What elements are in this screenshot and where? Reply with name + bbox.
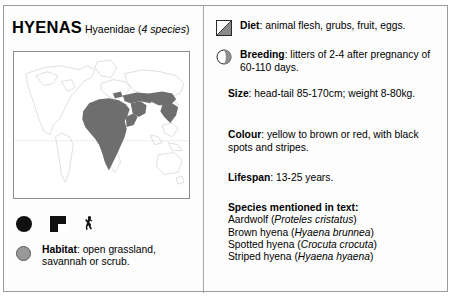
species-common-name: Striped hyena ( — [228, 251, 298, 262]
species-latin-name: Hyaena brunnea — [294, 227, 370, 238]
lifespan-value: : 13-25 years. — [270, 172, 333, 183]
habitat-label: Habitat — [42, 244, 77, 255]
species-latin-name: Hyaena hyaena — [298, 251, 370, 262]
species-latin-name: Proteles cristatus — [274, 214, 353, 225]
right-column: Diet: animal flesh, grubs, fruit, eggs. … — [204, 6, 449, 293]
species-list-item: Striped hyena (Hyaena hyaena) — [228, 251, 443, 263]
species-common-name: Aardwolf ( — [228, 214, 274, 225]
fact-panel: HYENASHyaenidae (4 species) — [3, 5, 448, 292]
species-paren-close: ) — [373, 239, 376, 250]
title-subtitle: Hyaenidae (4 species) — [85, 23, 189, 35]
fact-lifespan: Lifespan: 13-25 years. — [228, 172, 433, 185]
title-species-count: 4 species — [142, 23, 186, 35]
species-common-name: Spotted hyena ( — [228, 239, 301, 250]
species-list-item: Brown hyena (Hyaena brunnea) — [228, 227, 443, 239]
species-list-block: Species mentioned in text: Aardwolf (Pro… — [228, 202, 443, 263]
species-list-item: Spotted hyena (Crocuta crocuta) — [228, 239, 443, 251]
map-legend-symbols — [14, 214, 194, 236]
species-list-heading: Species mentioned in text: — [228, 202, 443, 214]
breeding-circle-icon — [216, 49, 232, 65]
left-column: HYENASHyaenidae (4 species) — [4, 6, 203, 293]
page-title: HYENASHyaenidae (4 species) — [12, 18, 189, 37]
fact-size: Size: head-tail 85-170cm; weight 8-80kg. — [228, 88, 433, 101]
animal-silhouette-symbol — [82, 214, 96, 234]
colour-label: Colour — [228, 129, 261, 140]
title-family: Hyaenidae ( — [85, 23, 142, 35]
fact-breeding: Breeding: litters of 2-4 after pregnancy… — [240, 49, 440, 74]
fact-colour: Colour: yellow to brown or red, with bla… — [228, 129, 438, 154]
habitat-circle-icon — [16, 246, 31, 261]
distribution-map — [13, 51, 190, 199]
world-map-svg — [14, 52, 189, 198]
species-latin-name: Crocuta crocuta — [301, 239, 374, 250]
species-list: Aardwolf (Proteles cristatus)Brown hyena… — [228, 214, 443, 263]
species-paren-close: ) — [371, 227, 374, 238]
title-paren-close: ) — [186, 23, 190, 35]
species-paren-close: ) — [353, 214, 356, 225]
species-common-name: Brown hyena ( — [228, 227, 294, 238]
diet-value: : animal flesh, grubs, fruit, eggs. — [259, 20, 405, 31]
title-main: HYENAS — [12, 18, 82, 36]
fact-diet: Diet: animal flesh, grubs, fruit, eggs. — [240, 20, 445, 33]
lifespan-label: Lifespan — [228, 172, 270, 183]
black-square-inner-notch — [58, 224, 66, 232]
species-list-item: Aardwolf (Proteles cristatus) — [228, 214, 443, 226]
habitat-text: Habitat: open grassland, savannah or scr… — [42, 244, 194, 269]
size-value: : head-tail 85-170cm; weight 8-80kg. — [249, 88, 416, 99]
diet-square-icon — [216, 20, 232, 36]
diet-icon-triangle — [217, 21, 231, 35]
breeding-label: Breeding — [240, 49, 285, 60]
species-paren-close: ) — [370, 251, 373, 262]
size-label: Size — [228, 88, 249, 99]
black-circle-symbol — [16, 216, 32, 232]
diet-label: Diet — [240, 20, 259, 31]
black-square-symbol — [50, 216, 66, 232]
